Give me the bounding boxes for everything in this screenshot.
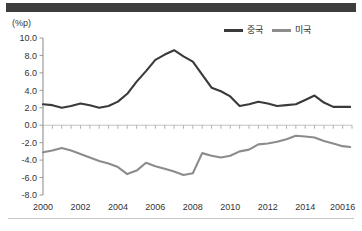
y-axis-tick-label: 2.0 <box>24 103 37 113</box>
x-axis-tick-label: 2014 <box>295 202 315 212</box>
x-axis-tick-label: 2002 <box>70 202 90 212</box>
y-axis-tick-label: 4.0 <box>24 86 37 96</box>
y-axis-tick-label: 6.0 <box>24 68 37 78</box>
y-axis-tick-label: -8.0 <box>21 190 37 200</box>
chart-figure: (%p) 중국 미국 10.08.06.04.02.00.0-2.0-4.0-6… <box>0 0 362 231</box>
series-line-usa <box>43 136 350 175</box>
y-axis-tick-label: -2.0 <box>21 138 37 148</box>
x-axis-tick-label: 2010 <box>220 202 240 212</box>
x-axis-tick-label: 2012 <box>258 202 278 212</box>
y-axis-tick-label: 0.0 <box>24 120 37 130</box>
bottom-divider <box>8 218 354 219</box>
y-axis-tick-label: -4.0 <box>21 155 37 165</box>
x-axis-tick-label: 2008 <box>183 202 203 212</box>
x-axis-tick-label: 2004 <box>108 202 128 212</box>
y-axis-tick-label: 8.0 <box>24 51 37 61</box>
y-axis-tick-label: 10.0 <box>19 33 37 43</box>
chart-plot-area: 10.08.06.04.02.00.0-2.0-4.0-6.0-8.020002… <box>0 0 362 231</box>
series-line-china <box>43 50 350 108</box>
x-axis-tick-label: 2000 <box>33 202 53 212</box>
y-axis-tick-label: -6.0 <box>21 173 37 183</box>
x-axis-tick-label: 2006 <box>145 202 165 212</box>
x-axis-tick-label: 20016 <box>330 202 355 212</box>
